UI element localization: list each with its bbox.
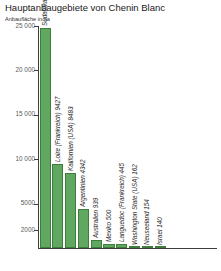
bar[interactable]: [65, 173, 76, 248]
bar[interactable]: [116, 244, 127, 248]
y-tick-label: 15 000: [15, 110, 35, 117]
y-tick-label: 20 000: [15, 66, 35, 73]
bar[interactable]: [129, 246, 140, 248]
y-tick-label: 5000: [21, 199, 35, 206]
bar[interactable]: [78, 209, 89, 248]
bar-slot[interactable]: Loire (Frankreich) 9427: [52, 26, 63, 248]
bar[interactable]: [40, 28, 51, 248]
chart-container: Hauptanbaugebiete von Chenin Blanc Anbau…: [0, 0, 221, 271]
y-tick-label: 2000: [21, 226, 35, 233]
chart-title: Hauptanbaugebiete von Chenin Blanc: [5, 2, 165, 13]
y-tick-label: 10 000: [15, 155, 35, 162]
bar-slot[interactable]: Australien 939: [91, 26, 102, 248]
bar-slot[interactable]: Neuseeland 154: [142, 26, 153, 248]
bar[interactable]: [103, 244, 114, 248]
bar-label: Mexiko 500: [105, 209, 112, 241]
bar-slot[interactable]: Israel 140: [155, 26, 166, 248]
bar-label: Washington State (USA) 162: [131, 164, 138, 245]
bar-label: Israel 140: [156, 217, 163, 245]
bar-slot[interactable]: Washington State (USA) 162: [129, 26, 140, 248]
bar[interactable]: [142, 246, 153, 248]
plot-area: 25 00020 00015 00010 00050002000 Südafri…: [38, 26, 216, 248]
bar-slot[interactable]: Südafrika 24 795: [40, 26, 51, 248]
bar-label: Kalifornien (USA) 8483: [67, 106, 74, 170]
bar-label: Neuseeland 154: [144, 199, 151, 245]
bar-label: Loire (Frankreich) 9427: [54, 97, 61, 162]
bar-label: Argentinien 4342: [80, 160, 87, 208]
y-tick-label: 25 000: [15, 22, 35, 29]
bar-series: Südafrika 24 795Loire (Frankreich) 9427K…: [38, 26, 216, 248]
bar-label: Languedoc (Frankreich) 445: [118, 163, 125, 242]
bar-slot[interactable]: Mexiko 500: [103, 26, 114, 248]
bar-slot[interactable]: Languedoc (Frankreich) 445: [116, 26, 127, 248]
bar-label: Australien 939: [92, 197, 99, 237]
bar[interactable]: [52, 164, 63, 248]
bar-slot[interactable]: Argentinien 4342: [78, 26, 89, 248]
bar[interactable]: [155, 246, 166, 248]
bar[interactable]: [91, 240, 102, 248]
bar-slot[interactable]: Kalifornien (USA) 8483: [65, 26, 76, 248]
